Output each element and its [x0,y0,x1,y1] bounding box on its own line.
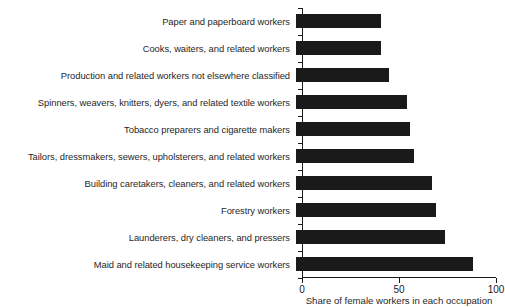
x-axis-tick [302,278,303,283]
bar [296,230,445,244]
bar [296,122,410,136]
bar-track [296,251,505,278]
y-axis-tick [298,197,303,198]
bar-row: Tailors, dressmakers, sewers, upholstere… [0,143,505,170]
bar-row: Paper and paperboard workers [0,8,505,35]
bar-row: Maid and related housekeeping service wo… [0,251,505,278]
bar-track [296,170,505,197]
bar-track [296,35,505,62]
bar-row: Launderers, dry cleaners, and pressers [0,224,505,251]
bar-row: Production and related workers not elsew… [0,62,505,89]
bar-row: Tobacco preparers and cigarette makers [0,116,505,143]
y-axis-tick [298,251,303,252]
y-axis-tick [298,8,303,9]
bar-track [296,116,505,143]
bar [296,257,473,271]
category-label: Building caretakers, cleaners, and relat… [0,178,296,189]
bar [296,41,381,55]
bar-track [296,224,505,251]
x-axis-label: Share of female workers in each occupati… [302,295,496,306]
bar-row: Building caretakers, cleaners, and relat… [0,170,505,197]
category-label: Production and related workers not elsew… [0,70,296,81]
y-axis-tick [298,170,303,171]
x-axis-tick [496,278,497,283]
y-axis-tick [298,116,303,117]
y-axis-tick [298,89,303,90]
bar-track [296,8,505,35]
category-label: Spinners, weavers, knitters, dyers, and … [0,97,296,108]
bar [296,14,381,28]
category-label: Forestry workers [0,205,296,216]
bar [296,95,407,109]
bar [296,68,389,82]
bar-chart: Paper and paperboard workersCooks, waite… [0,0,505,307]
bar [296,149,414,163]
y-axis-tick [298,35,303,36]
y-axis-tick [298,224,303,225]
bar-track [296,89,505,116]
category-label: Maid and related housekeeping service wo… [0,259,296,270]
y-axis-tick [298,62,303,63]
bar-track [296,62,505,89]
category-label: Cooks, waiters, and related workers [0,43,296,54]
bar-row: Forestry workers [0,197,505,224]
bar-track [296,143,505,170]
category-label: Paper and paperboard workers [0,16,296,27]
category-label: Launderers, dry cleaners, and pressers [0,232,296,243]
bar-row: Spinners, weavers, knitters, dyers, and … [0,89,505,116]
bar-row: Cooks, waiters, and related workers [0,35,505,62]
bar [296,176,432,190]
y-axis-tick [298,143,303,144]
category-label: Tobacco preparers and cigarette makers [0,124,296,135]
bar [296,203,436,217]
category-label: Tailors, dressmakers, sewers, upholstere… [0,151,296,162]
x-axis-tick [399,278,400,283]
bar-track [296,197,505,224]
